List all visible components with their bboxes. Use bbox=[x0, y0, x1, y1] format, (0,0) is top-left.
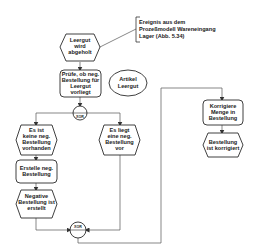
annotation-connector bbox=[100, 29, 136, 47]
svg-text:vor: vor bbox=[115, 145, 125, 151]
edge-created-to-join bbox=[36, 218, 69, 230]
xor-split-operator[interactable]: XOR bbox=[73, 106, 87, 120]
function-korrigiere-menge[interactable]: Korrigiere Menge in Bestellung bbox=[203, 100, 243, 125]
event-keine-neg-bestellung[interactable]: Es ist keine neg. Bestellung vorhanden bbox=[16, 125, 57, 155]
svg-text:XOR: XOR bbox=[76, 115, 84, 119]
edge-exists-to-join bbox=[87, 155, 120, 230]
note-line-1: Ereignis aus dem bbox=[139, 19, 185, 25]
epc-diagram: Ereignis aus dem Prozeßmodell Wareneinga… bbox=[0, 0, 259, 252]
svg-text:vorhanden: vorhanden bbox=[22, 145, 51, 151]
svg-text:Bestellung: Bestellung bbox=[22, 171, 51, 177]
note-line-3: Lager (Abb. 5.34) bbox=[139, 33, 185, 39]
event-negative-bestellung-erstellt[interactable]: Negative Bestellung ist erstellt bbox=[16, 190, 57, 218]
info-object-artikel-leergut[interactable]: Artikel Leergut bbox=[109, 70, 147, 96]
event-leergut-abgeholt[interactable]: Leergut wird abgeholt bbox=[60, 34, 100, 61]
edge-join-to-correct bbox=[78, 88, 222, 243]
svg-text:XOR: XOR bbox=[74, 225, 82, 229]
event-neg-bestellung-liegt-vor[interactable]: Es liegt eine neg. Bestellung vor bbox=[99, 125, 140, 155]
svg-text:vorliegt: vorliegt bbox=[70, 89, 90, 95]
svg-text:Artikel: Artikel bbox=[119, 76, 137, 82]
event-bestellung-korrigiert[interactable]: Bestellung ist korrigiert bbox=[203, 133, 243, 157]
xor-join-operator[interactable]: XOR bbox=[70, 222, 86, 238]
annotation-note: Ereignis aus dem Prozeßmodell Wareneinga… bbox=[136, 17, 216, 42]
function-pruefe-neg-bestellung[interactable]: Prüfe, ob neg. Bestellung für Leergut vo… bbox=[60, 70, 101, 97]
svg-text:abgeholt: abgeholt bbox=[68, 49, 91, 55]
svg-text:Bestellung: Bestellung bbox=[209, 115, 238, 121]
svg-text:erstellt: erstellt bbox=[27, 205, 45, 211]
note-line-2: Prozeßmodell Wareneingang bbox=[139, 26, 216, 32]
function-erstelle-neg-bestellung[interactable]: Erstelle neg. Bestellung bbox=[16, 160, 57, 183]
svg-text:ist korrigiert: ist korrigiert bbox=[207, 145, 240, 151]
svg-text:Leergut: Leergut bbox=[118, 83, 139, 89]
